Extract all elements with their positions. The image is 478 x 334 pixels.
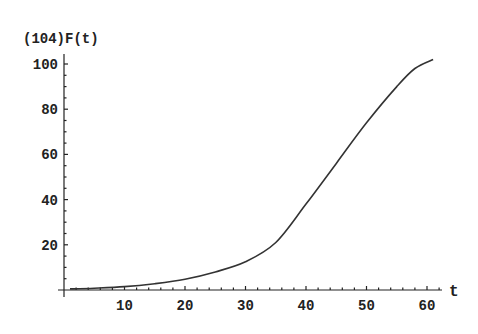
x-tick-label: 50: [358, 298, 375, 314]
y-tick-label: 100: [33, 57, 58, 73]
chart-canvas: (104)F(t) 20406080100 102030405060 t: [0, 0, 478, 334]
axes: [58, 54, 442, 297]
x-tick-label: 30: [237, 298, 254, 314]
chart: (104)F(t) 20406080100 102030405060 t: [0, 0, 478, 334]
chart-title: (104)F(t): [23, 31, 99, 47]
x-tick-label: 60: [419, 298, 436, 314]
y-tick-label: 20: [41, 238, 58, 254]
x-axis-label: t: [449, 283, 459, 301]
y-tick-label: 60: [41, 147, 58, 163]
y-axis-ticks: 20406080100: [33, 57, 68, 279]
y-tick-label: 40: [41, 193, 58, 209]
x-tick-label: 10: [116, 298, 133, 314]
x-tick-label: 40: [298, 298, 315, 314]
x-tick-label: 20: [177, 298, 194, 314]
data-series-line: [70, 60, 433, 289]
y-tick-label: 80: [41, 102, 58, 118]
